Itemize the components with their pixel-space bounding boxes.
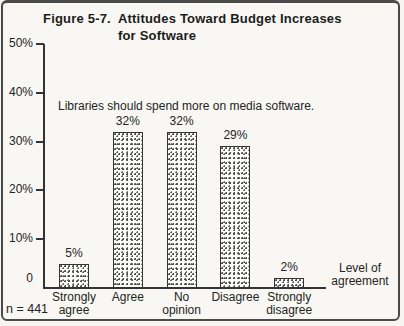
category-label-strongly-agree: Strongly agree <box>45 291 103 317</box>
y-axis-tick-40 <box>36 92 44 94</box>
y-axis-tick-label-20: 20% <box>0 182 33 197</box>
bar-strongly-agree <box>59 264 89 288</box>
y-axis-tick-20 <box>36 189 44 191</box>
category-label-no-opinion: No opinion <box>153 291 211 317</box>
bar-value-no-opinion: 32% <box>160 114 204 129</box>
bar-value-strongly-disagree: 2% <box>267 260 311 275</box>
bar-strongly-disagree <box>274 278 304 288</box>
y-axis-tick-label-30: 30% <box>0 134 33 149</box>
y-axis-tick-label-10: 10% <box>0 231 33 246</box>
y-axis-tick-50 <box>36 43 44 45</box>
sample-size-label: n = 441 <box>6 302 48 316</box>
x-axis-title: Level of agreement <box>325 262 395 288</box>
bar-chart: Libraries should spend more on media sof… <box>0 0 404 326</box>
bar-value-agree: 32% <box>106 114 150 129</box>
y-axis-tick-30 <box>36 141 44 143</box>
y-axis-tick-label-0: 0 <box>0 271 33 286</box>
bar-value-strongly-agree: 5% <box>52 246 96 261</box>
y-axis-tick-label-40: 40% <box>0 85 33 100</box>
category-label-disagree: Disagree <box>206 291 264 304</box>
bar-agree <box>113 132 143 288</box>
figure-page: Figure 5-7. Attitudes Toward Budget Incr… <box>0 0 404 326</box>
y-axis-tick-10 <box>36 238 44 240</box>
chart-annotation: Libraries should spend more on media sof… <box>58 99 314 113</box>
bar-disagree <box>220 146 250 288</box>
category-label-strongly-disagree: Strongly disagree <box>260 291 318 317</box>
bar-no-opinion <box>167 132 197 288</box>
category-label-agree: Agree <box>99 291 157 304</box>
bar-value-disagree: 29% <box>213 128 257 143</box>
y-axis-line <box>43 44 45 289</box>
y-axis-tick-label-50: 50% <box>0 36 33 51</box>
